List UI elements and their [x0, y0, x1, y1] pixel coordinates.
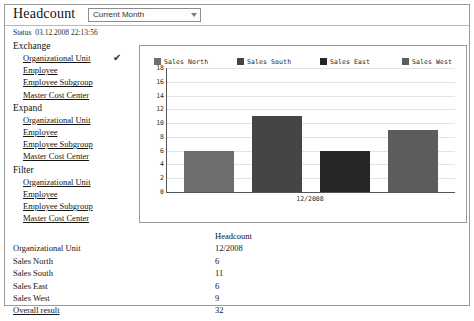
- legend-entry-sales-south: Sales South: [237, 50, 291, 62]
- nav-item-label: Organizational Unit: [23, 115, 91, 125]
- nav-group-title: Expand: [13, 102, 133, 114]
- table-cell-value: 32: [215, 305, 224, 315]
- y-axis-tick-label: 6: [160, 147, 164, 155]
- nav-item-organizational-unit[interactable]: Organizational Unit: [13, 114, 133, 126]
- table-header-row: Headcount: [13, 231, 465, 243]
- table-row: Sales West9: [13, 293, 465, 305]
- nav-item-label: Employee: [23, 189, 57, 199]
- table-row: Overall result32: [13, 305, 465, 317]
- nav-item-label: Organizational Unit: [23, 53, 91, 63]
- bar-sales-west: [388, 130, 438, 192]
- y-axis-tick-label: 4: [160, 160, 164, 168]
- y-axis-tick-label: 16: [156, 78, 164, 86]
- nav-item-master-cost-center[interactable]: Master Cost Center: [13, 89, 133, 101]
- gridline: [167, 123, 455, 124]
- y-axis-tick-label: 8: [160, 133, 164, 141]
- x-axis-tick-label: 12/2008: [166, 195, 454, 203]
- status-label: Status: [13, 28, 31, 37]
- legend-entry-sales-east: Sales East: [320, 50, 370, 62]
- nav-item-master-cost-center[interactable]: Master Cost Center: [13, 150, 133, 162]
- nav-item-label: Organizational Unit: [23, 177, 91, 187]
- nav-group-exchange: ExchangeOrganizational Unit✔EmployeeEmpl…: [13, 40, 133, 101]
- table-row: Sales East6: [13, 281, 465, 293]
- legend-entry-sales-west: Sales West: [402, 50, 452, 62]
- table-cell-label: Organizational Unit: [13, 243, 81, 253]
- gridline: [167, 68, 455, 69]
- bar-sales-east: [320, 151, 370, 192]
- table-cell-label: Sales North: [13, 256, 53, 266]
- nav-group-title: Exchange: [13, 40, 133, 52]
- table-header-value: Headcount: [215, 231, 252, 241]
- period-select[interactable]: Current Month: [88, 8, 201, 22]
- y-axis-tick-label: 0: [160, 188, 164, 196]
- y-axis-tick-label: 18: [156, 64, 164, 72]
- table-cell-value: 9: [215, 293, 219, 303]
- table-cell-value: 11: [215, 268, 223, 278]
- page-title: Headcount: [13, 6, 75, 22]
- y-axis-tick-label: 12: [156, 105, 164, 113]
- data-table: Headcount Organizational Unit12/2008Sale…: [13, 231, 465, 318]
- bar-sales-north: [184, 151, 234, 192]
- table-cell-label: Sales West: [13, 293, 50, 303]
- gridline: [167, 96, 455, 97]
- chart-legend: Sales NorthSales SouthSales EastSales We…: [140, 50, 466, 64]
- nav-item-master-cost-center[interactable]: Master Cost Center: [13, 212, 133, 224]
- chart-plot-area: 024681012141618: [166, 68, 455, 193]
- gridline: [167, 109, 455, 110]
- legend-entry-sales-north: Sales North: [154, 50, 208, 62]
- nav-item-employee[interactable]: Employee: [13, 188, 133, 200]
- table-cell-label: Overall result: [13, 305, 60, 315]
- nav-item-employee-subgroup[interactable]: Employee Subgroup: [13, 76, 133, 88]
- table-row: Sales South11: [13, 268, 465, 280]
- report-frame: Headcount Current Month Status03.12.2008…: [4, 4, 470, 306]
- table-row: Sales North6: [13, 256, 465, 268]
- table-cell-value: 6: [215, 281, 219, 291]
- bar-sales-south: [252, 116, 302, 192]
- nav-item-employee-subgroup[interactable]: Employee Subgroup: [13, 200, 133, 212]
- table-cell-label: Sales East: [13, 281, 48, 291]
- check-icon: ✔: [113, 52, 121, 64]
- nav-item-label: Employee Subgroup: [23, 201, 93, 211]
- nav-item-label: Employee: [23, 65, 57, 75]
- chevron-down-icon: [191, 13, 197, 17]
- status-line: Status03.12.2008 22:13:56: [13, 28, 98, 37]
- nav-group-filter: FilterOrganizational UnitEmployeeEmploye…: [13, 164, 133, 225]
- nav-item-label: Employee Subgroup: [23, 77, 93, 87]
- nav-group-title: Filter: [13, 164, 133, 176]
- nav-item-label: Master Cost Center: [23, 90, 89, 100]
- table-row: Organizational Unit12/2008: [13, 243, 465, 255]
- report-header: Headcount Current Month: [5, 5, 469, 26]
- table-cell-value: 6: [215, 256, 219, 266]
- nav-item-organizational-unit[interactable]: Organizational Unit: [13, 176, 133, 188]
- nav-item-employee[interactable]: Employee: [13, 64, 133, 76]
- gridline: [167, 82, 455, 83]
- y-axis-tick-label: 14: [156, 92, 164, 100]
- table-cell-value: 12/2008: [215, 243, 243, 253]
- nav-item-label: Employee: [23, 127, 57, 137]
- nav-item-organizational-unit[interactable]: Organizational Unit✔: [13, 52, 133, 64]
- chart-card: Sales NorthSales SouthSales EastSales We…: [139, 45, 467, 223]
- period-select-value: Current Month: [93, 10, 144, 19]
- y-axis-tick-label: 2: [160, 174, 164, 182]
- nav-item-label: Master Cost Center: [23, 213, 89, 223]
- nav-item-label: Employee Subgroup: [23, 139, 93, 149]
- chart-plot-wrap: 024681012141618 12/2008: [140, 64, 468, 224]
- status-timestamp: 03.12.2008 22:13:56: [35, 28, 97, 37]
- nav-item-label: Master Cost Center: [23, 151, 89, 161]
- nav-group-expand: ExpandOrganizational UnitEmployeeEmploye…: [13, 102, 133, 163]
- nav-item-employee[interactable]: Employee: [13, 126, 133, 138]
- y-axis-tick-label: 10: [156, 119, 164, 127]
- nav-item-employee-subgroup[interactable]: Employee Subgroup: [13, 138, 133, 150]
- table-cell-label: Sales South: [13, 268, 53, 278]
- nav-panel: ExchangeOrganizational Unit✔EmployeeEmpl…: [13, 40, 133, 225]
